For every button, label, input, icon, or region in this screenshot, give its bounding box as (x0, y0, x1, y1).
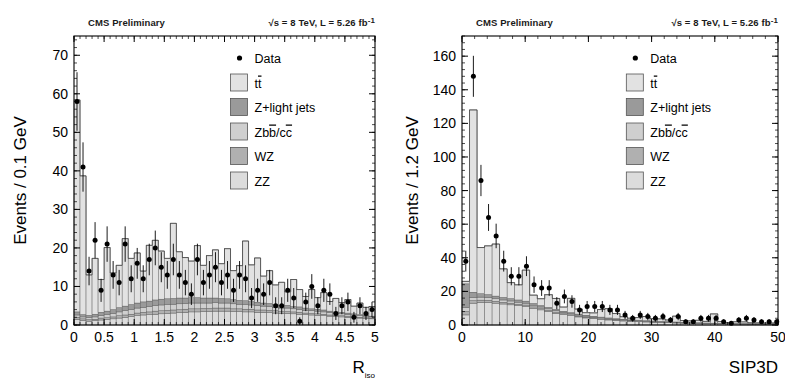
histogram-bin (80, 317, 86, 319)
legend-swatch (231, 172, 248, 189)
histogram-bin (152, 314, 158, 325)
histogram-bin (110, 313, 116, 316)
histogram-bin (477, 294, 485, 297)
histogram-bin (86, 321, 92, 325)
data-marker (630, 316, 635, 321)
legend-swatch (231, 123, 248, 140)
x-tick-label: 40 (707, 329, 723, 345)
y-tick-label: 10 (52, 278, 68, 294)
histogram-bin (182, 298, 188, 303)
histogram-bin (545, 295, 553, 308)
histogram-bin (462, 312, 470, 315)
histogram-bin (225, 308, 231, 311)
histogram-bin (309, 311, 315, 314)
data-marker (249, 296, 254, 301)
histogram-bin (134, 303, 140, 308)
histogram-bin (110, 319, 116, 325)
data-marker (153, 245, 158, 250)
x-tick-label: 2 (191, 329, 199, 345)
histogram-bin (470, 303, 478, 325)
histogram-bin (128, 317, 134, 325)
histogram-bin (522, 301, 530, 303)
histogram-bin (243, 312, 249, 325)
legend-marker-data (237, 55, 242, 60)
y-tick-label: 40 (440, 250, 456, 266)
histogram-bin (339, 317, 345, 325)
histogram-bin (255, 302, 261, 305)
histogram-bin (291, 309, 297, 312)
data-marker (255, 288, 260, 293)
histogram-bin (261, 306, 267, 310)
data-marker (243, 276, 248, 281)
histogram-bin (477, 248, 485, 294)
histogram-bin (200, 303, 206, 308)
data-marker (339, 303, 344, 308)
histogram-bin (104, 320, 110, 325)
histogram-bin (146, 301, 152, 306)
data-marker (297, 319, 302, 324)
data-marker (207, 272, 212, 277)
histogram-bin (140, 312, 146, 315)
histogram-bin (92, 258, 98, 314)
data-marker (135, 261, 140, 266)
header-luminosity: √s = 8 TeV, L = 5.26 fb-1 (268, 16, 375, 29)
legend-swatch (626, 99, 643, 116)
data-marker (736, 317, 741, 322)
histogram-bin (485, 295, 493, 298)
histogram-bin (243, 301, 249, 305)
legend-marker-data (633, 55, 638, 60)
data-marker (123, 242, 128, 247)
histogram-bin (537, 299, 545, 306)
histogram-bin (590, 319, 598, 325)
data-marker (554, 301, 559, 306)
histogram-bin (237, 304, 243, 309)
y-tick-label: 0 (448, 317, 456, 333)
legend-label: ZZ (650, 175, 666, 189)
histogram-bin (122, 317, 128, 325)
y-tick-label: 40 (52, 163, 68, 179)
histogram-bin (267, 313, 273, 325)
data-marker (345, 299, 350, 304)
histogram-bin (212, 298, 218, 303)
histogram-bin (255, 310, 261, 312)
histogram-bin (86, 318, 92, 320)
x-axis-title: SIP3D (729, 358, 778, 377)
histogram-bin (530, 305, 538, 307)
histogram-bin (158, 314, 164, 325)
histogram-bin (522, 303, 530, 305)
data-marker (562, 294, 567, 299)
histogram-bin (279, 313, 285, 325)
histogram-bin (605, 320, 613, 325)
histogram-bin (158, 311, 164, 314)
histogram-bin (237, 309, 243, 312)
histogram-bin (515, 300, 523, 302)
histogram-bin (92, 314, 98, 317)
data-marker (309, 284, 314, 289)
y-tick-label: 60 (52, 86, 68, 102)
histogram-bin (212, 303, 218, 308)
histogram-bin (134, 316, 140, 325)
histogram-bin (485, 300, 493, 302)
histogram-bin (152, 306, 158, 311)
y-tick-label: 70 (52, 47, 68, 63)
histogram-bin (369, 319, 375, 325)
histogram-bin (612, 314, 620, 319)
x-tick-label: 0.5 (94, 329, 114, 345)
histogram-bin (92, 317, 98, 319)
histogram-bin (122, 315, 128, 317)
histogram-bin (507, 305, 515, 325)
histogram-bin (182, 309, 188, 312)
data-marker (267, 280, 272, 285)
data-marker (225, 272, 230, 277)
histogram-bin (194, 312, 200, 325)
histogram-bin (128, 310, 134, 315)
histogram-bin (309, 309, 315, 311)
histogram-bin (321, 312, 327, 314)
histogram-bin (462, 307, 470, 311)
y-tick-label: 50 (52, 124, 68, 140)
data-marker (471, 74, 476, 79)
legend-swatch (626, 172, 643, 189)
data-marker (767, 319, 772, 324)
histogram-bin (74, 100, 80, 312)
histogram-bin (206, 312, 212, 325)
